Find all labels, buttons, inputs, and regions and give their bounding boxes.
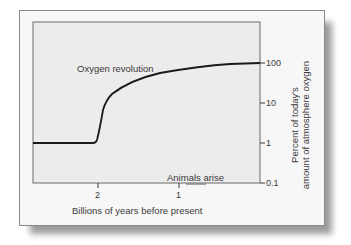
annotation-oxygen-revolution: Oxygen revolution <box>77 63 154 74</box>
y-axis-label-line1: Percent of today's <box>289 87 300 163</box>
plot-area <box>33 22 260 183</box>
y-axis: 100 10 1 0.1 <box>260 58 281 188</box>
chart: 100 10 1 0.1 2 1 Billions of years befor… <box>0 0 351 245</box>
y-tick-100: 100 <box>266 58 281 68</box>
y-tick-1: 1 <box>266 138 271 148</box>
y-tick-10: 10 <box>266 98 276 108</box>
x-tick-1: 1 <box>176 190 181 200</box>
y-tick-0.1: 0.1 <box>266 178 279 188</box>
y-axis-label-line2: amount of atmosphere oxygen <box>300 61 311 189</box>
x-axis-label: Billions of years before present <box>72 205 203 216</box>
annotation-animals-arise: Animals arise <box>167 172 224 183</box>
y-axis-label: Percent of today's amount of atmosphere … <box>289 61 311 189</box>
x-axis: 2 1 Billions of years before present <box>72 183 203 216</box>
x-tick-2: 2 <box>95 190 100 200</box>
